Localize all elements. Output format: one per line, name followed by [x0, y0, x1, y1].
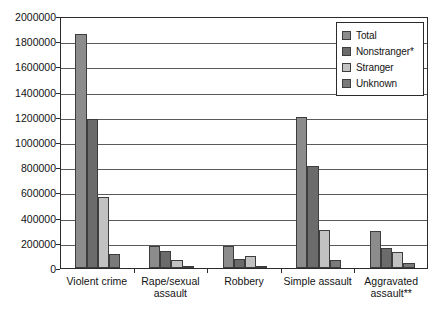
- legend-item: Stranger: [337, 59, 423, 75]
- x-axis-category-line: Rape/sexual: [134, 275, 208, 287]
- legend-swatch-icon: [342, 31, 351, 40]
- bar-chart: 0200000400000600000800000100000012000001…: [0, 0, 442, 310]
- bar: [109, 254, 120, 268]
- x-axis-tick-mark: [281, 269, 282, 273]
- bar: [223, 246, 234, 268]
- bar: [149, 246, 160, 268]
- x-axis-category-label: Simple assault: [281, 275, 355, 287]
- legend-item-label: Unknown: [356, 78, 397, 89]
- legend: TotalNonstranger*StrangerUnknown: [336, 22, 424, 96]
- legend-swatch-icon: [342, 47, 351, 56]
- x-axis-category-label: Rape/sexualassault: [134, 275, 208, 299]
- x-axis-category-line: Simple assault: [281, 275, 355, 287]
- x-axis-category-line: assault**: [354, 287, 428, 299]
- bar: [403, 263, 414, 268]
- legend-swatch-icon: [342, 63, 351, 72]
- bar: [319, 230, 330, 268]
- x-axis-category-label: Violent crime: [60, 275, 134, 287]
- y-axis-tick-label: 400000: [0, 213, 56, 225]
- y-axis-tick-label: 0: [0, 263, 56, 275]
- legend-item-label: Stranger: [356, 62, 394, 73]
- bar: [330, 260, 341, 268]
- x-axis-category-line: Aggravated: [354, 275, 428, 287]
- y-axis-tick-label: 600000: [0, 187, 56, 199]
- bar: [160, 251, 171, 268]
- legend-item-label: Nonstranger*: [356, 46, 414, 57]
- y-axis-tick-label: 200000: [0, 238, 56, 250]
- x-axis-category-label: Robbery: [207, 275, 281, 287]
- bar: [183, 266, 194, 268]
- y-axis-tick-label: 1000000: [0, 137, 56, 149]
- legend-item-label: Total: [356, 30, 377, 41]
- bar: [245, 256, 256, 268]
- y-axis-tick-label: 1400000: [0, 87, 56, 99]
- bar: [381, 248, 392, 268]
- bar: [392, 252, 403, 268]
- y-axis-tick-label: 800000: [0, 162, 56, 174]
- y-axis-tick-label: 1600000: [0, 61, 56, 73]
- legend-swatch-icon: [342, 79, 351, 88]
- x-axis-tick-mark: [207, 269, 208, 273]
- y-axis-tick-mark: [56, 269, 60, 270]
- y-axis-tick-label: 2000000: [0, 11, 56, 23]
- y-axis-tick-label: 1800000: [0, 36, 56, 48]
- bar: [256, 266, 267, 268]
- x-axis-tick-mark: [354, 269, 355, 273]
- bar: [307, 166, 318, 268]
- bar: [87, 119, 98, 268]
- x-axis-category-label: Aggravatedassault**: [354, 275, 428, 299]
- bar: [171, 260, 182, 268]
- bar: [234, 259, 245, 268]
- x-axis-category-line: assault: [134, 287, 208, 299]
- bar: [98, 197, 109, 268]
- x-axis-category-line: Violent crime: [60, 275, 134, 287]
- bar: [75, 34, 86, 268]
- bar: [370, 231, 381, 268]
- y-axis-tick-label: 1200000: [0, 112, 56, 124]
- legend-item: Unknown: [337, 75, 423, 91]
- x-axis-tick-mark: [134, 269, 135, 273]
- legend-item: Nonstranger*: [337, 43, 423, 59]
- legend-item: Total: [337, 27, 423, 43]
- bar: [296, 117, 307, 268]
- x-axis-category-line: Robbery: [207, 275, 281, 287]
